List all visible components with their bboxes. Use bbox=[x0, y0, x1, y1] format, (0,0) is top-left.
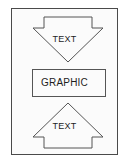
graphic-box-label: GRAPHIC bbox=[0, 77, 129, 89]
down-arrow-label: TEXT bbox=[0, 34, 129, 44]
figure-root: TEXT GRAPHIC TEXT bbox=[0, 0, 129, 164]
up-arrow-label: TEXT bbox=[0, 121, 129, 131]
